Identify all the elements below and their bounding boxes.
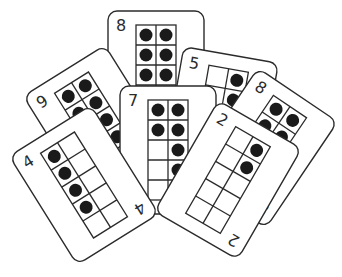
counter-dot [140, 49, 153, 62]
counter-dot [152, 124, 165, 137]
card-number-label: 7 [128, 91, 138, 110]
counter-dot [172, 104, 185, 117]
counter-dot [160, 69, 173, 82]
counter-dot [160, 49, 173, 62]
ten-frame-cards-illustration: 8958874422 [0, 0, 342, 277]
counter-dot [152, 104, 165, 117]
counter-dot [172, 124, 185, 137]
counter-dot [172, 144, 185, 157]
counter-dot [140, 69, 153, 82]
counter-dot [160, 29, 173, 42]
counter-dot [140, 29, 153, 42]
card-number-label: 8 [116, 16, 126, 35]
